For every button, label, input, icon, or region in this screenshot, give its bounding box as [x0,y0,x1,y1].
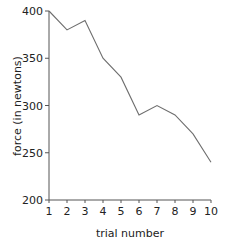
x-tick-label: 6 [136,205,143,218]
y-tick-label: 400 [22,5,43,18]
y-tick-label: 350 [22,52,43,65]
x-tick-label: 1 [46,205,53,218]
x-tick-label: 7 [154,205,161,218]
x-axis: 12345678910 [46,200,219,218]
x-tick-label: 5 [118,205,125,218]
line-chart: 200250300350400 12345678910 force (in ne… [0,0,228,240]
y-axis-label: force (in newtons) [11,56,24,156]
x-axis-label: trial number [96,227,165,240]
x-tick-label: 8 [172,205,179,218]
x-tick-label: 2 [64,205,71,218]
x-tick-label: 9 [190,205,197,218]
y-tick-label: 300 [22,100,43,113]
x-tick-label: 3 [82,205,89,218]
x-tick-label: 4 [100,205,107,218]
x-tick-label: 10 [204,205,218,218]
y-axis: 200250300350400 [22,5,49,207]
y-tick-label: 200 [22,194,43,207]
y-tick-label: 250 [22,147,43,160]
data-line [49,11,211,162]
